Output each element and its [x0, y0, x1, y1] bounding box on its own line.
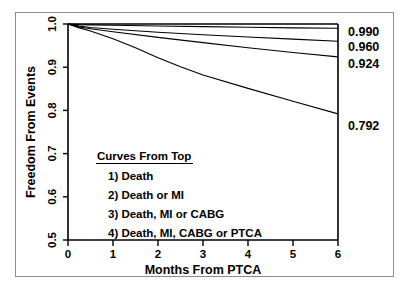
legend-item-1: 1) Death	[108, 170, 153, 182]
end-label-group: 0.990 0.960 0.924 0.792	[348, 25, 379, 133]
curve-death-mi-cabg-or-ptca	[68, 24, 338, 114]
y-tick-label-0-8: 0.8	[46, 102, 58, 119]
x-axis-tick-labels: 0 1 2 3 4 5 6	[65, 248, 341, 260]
x-axis-title: Months From PTCA	[145, 263, 262, 277]
x-tick-label-2: 2	[155, 248, 161, 260]
x-tick-label-0: 0	[65, 248, 71, 260]
legend-item-2: 2) Death or MI	[108, 189, 184, 201]
y-tick-label-0-9: 0.9	[46, 59, 58, 75]
x-tick-label-6: 6	[335, 248, 341, 260]
y-tick-label-1-0: 1.0	[46, 16, 58, 32]
y-tick-label-0-7: 0.7	[46, 146, 58, 162]
x-tick-label-3: 3	[200, 248, 206, 260]
y-axis-title: Freedom From Events	[24, 66, 38, 198]
end-label-death-mi-cabg-ptca: 0.792	[348, 119, 379, 133]
figure-canvas: 1.0 0.9 0.8 0.7 0.6 0.5 Freedom From Eve…	[0, 0, 407, 292]
y-tick-label-0-6: 0.6	[46, 189, 58, 205]
curve-group	[68, 24, 338, 114]
legend-item-3: 3) Death, MI or CABG	[108, 208, 224, 220]
legend-item-4: 4) Death, MI, CABG or PTCA	[108, 227, 262, 239]
x-tick-label-4: 4	[245, 248, 252, 260]
survival-curve-chart: 1.0 0.9 0.8 0.7 0.6 0.5 Freedom From Eve…	[0, 0, 407, 292]
legend-title: Curves From Top	[97, 150, 191, 162]
end-label-death-mi-cabg: 0.924	[348, 57, 379, 71]
y-tick-label-0-5: 0.5	[46, 231, 58, 248]
end-label-death: 0.990	[348, 25, 379, 39]
x-axis-ticks	[68, 240, 338, 246]
x-tick-label-1: 1	[110, 248, 117, 260]
end-label-death-or-mi: 0.960	[348, 40, 379, 54]
chart-legend: Curves From Top 1) Death 2) Death or MI …	[96, 150, 262, 239]
y-axis-tick-labels: 1.0 0.9 0.8 0.7 0.6 0.5	[46, 16, 58, 248]
x-tick-label-5: 5	[290, 248, 297, 260]
